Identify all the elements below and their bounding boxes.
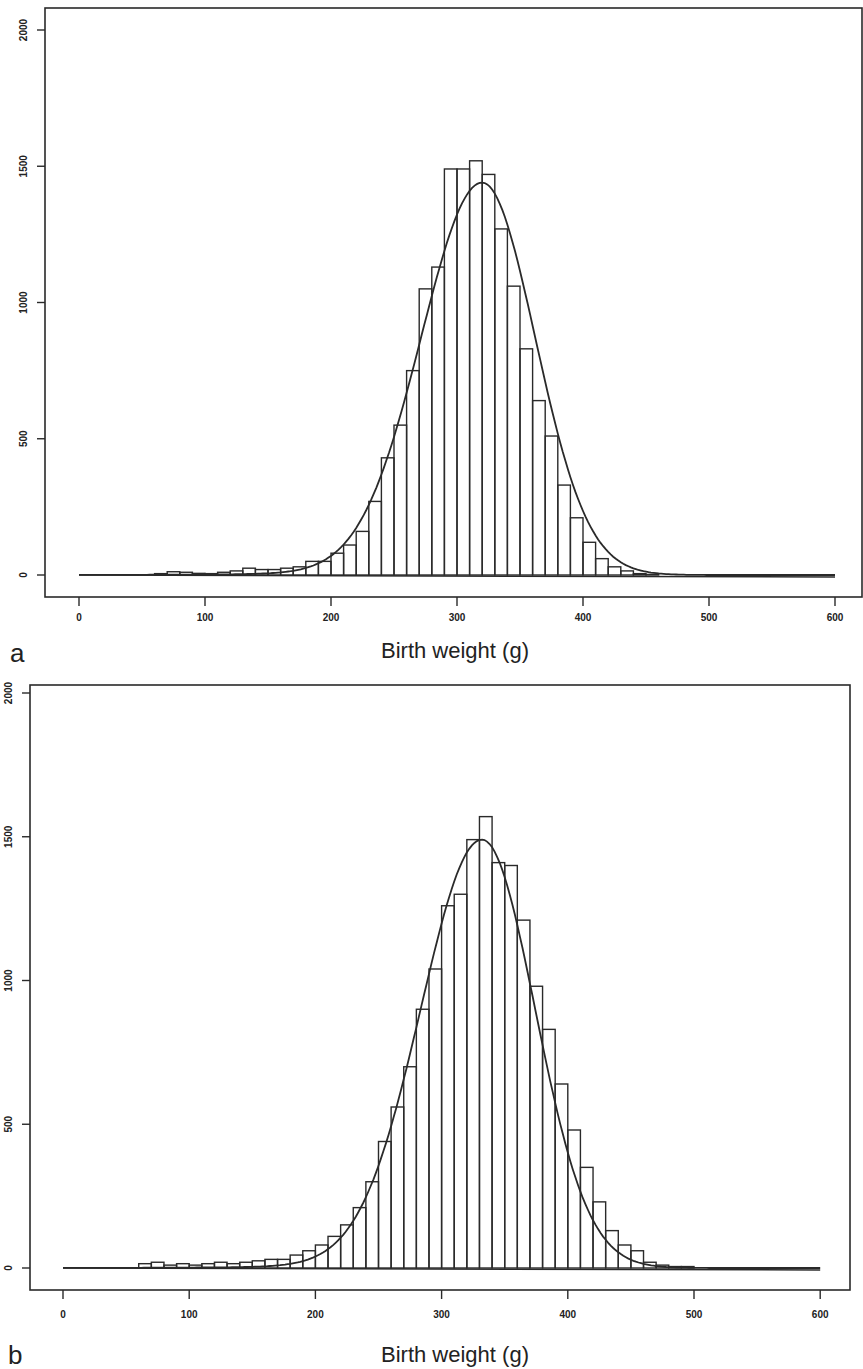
histogram-bar	[419, 289, 432, 575]
histogram-panel-a: 05001000150020000100200300400500600Birth…	[10, 8, 862, 668]
histogram-bar	[596, 559, 609, 575]
x-tick-label: 0	[76, 612, 82, 623]
x-tick-label: 100	[181, 1309, 198, 1320]
x-tick-label: 0	[60, 1309, 66, 1320]
x-tick-label: 500	[701, 612, 718, 623]
histogram-panel-b: 05001000150020000100200300400500600Birth…	[3, 681, 850, 1369]
histogram-bar	[344, 545, 357, 575]
histogram-bar	[621, 571, 634, 575]
x-tick-label: 400	[575, 612, 592, 623]
x-tick-label: 300	[433, 1309, 450, 1320]
histogram-bar	[416, 1009, 429, 1268]
y-tick-label: 0	[3, 1265, 14, 1271]
histogram-bar	[507, 286, 520, 575]
histogram-bar	[442, 906, 455, 1268]
histogram-bar	[606, 1231, 619, 1268]
x-tick-label: 500	[686, 1309, 703, 1320]
histogram-bar	[394, 425, 407, 575]
histogram-bar	[404, 1067, 417, 1268]
histogram-bar	[369, 501, 382, 575]
panel-label: a	[10, 638, 25, 668]
histogram-bar	[391, 1107, 404, 1268]
x-axis-title: Birth weight (g)	[381, 1342, 529, 1367]
histogram-bar	[593, 1202, 606, 1268]
plot-frame	[30, 685, 850, 1290]
y-tick-label: 1000	[3, 969, 14, 992]
histogram-bar	[570, 518, 583, 575]
x-tick-label: 200	[307, 1309, 324, 1320]
histogram-bar	[530, 986, 543, 1268]
x-tick-label: 200	[323, 612, 340, 623]
x-tick-label: 100	[197, 612, 214, 623]
panel-label: b	[8, 1340, 22, 1369]
y-tick-label: 1000	[18, 291, 29, 314]
x-tick-label: 400	[559, 1309, 576, 1320]
histogram-bar	[492, 863, 505, 1268]
x-tick-label: 600	[812, 1309, 829, 1320]
histogram-bar	[454, 894, 467, 1268]
plot-frame	[45, 8, 862, 597]
histogram-bar	[646, 574, 659, 575]
histogram-bar	[505, 866, 518, 1269]
histogram-bar	[331, 553, 344, 575]
histogram-bar	[482, 174, 495, 575]
histogram-bar	[533, 401, 546, 575]
histogram-bar	[633, 574, 646, 575]
histogram-bar	[631, 1251, 644, 1268]
histogram-bar	[543, 1029, 556, 1268]
histogram-bar	[568, 1130, 581, 1268]
histogram-bar	[479, 817, 492, 1268]
histogram-bar	[328, 1236, 341, 1268]
histogram-bar	[407, 371, 420, 575]
histogram-bar	[356, 531, 369, 575]
x-tick-label: 600	[827, 612, 844, 623]
histogram-bar	[545, 436, 558, 575]
histogram-bar	[429, 969, 442, 1268]
histogram-bar	[583, 542, 596, 575]
y-tick-label: 1500	[18, 155, 29, 178]
y-tick-label: 500	[18, 430, 29, 447]
histogram-bar	[381, 458, 394, 575]
histogram-bar	[558, 485, 571, 575]
figure: 05001000150020000100200300400500600Birth…	[0, 0, 863, 1369]
histogram-bar	[432, 267, 445, 575]
histogram-bar	[467, 840, 480, 1268]
histogram-bar	[470, 161, 483, 575]
histogram-bar	[495, 229, 508, 575]
y-tick-label: 2000	[3, 681, 14, 704]
x-tick-label: 300	[449, 612, 466, 623]
histogram-bar	[520, 349, 533, 575]
y-tick-label: 500	[3, 1115, 14, 1132]
histogram-bar	[457, 169, 470, 575]
y-tick-label: 1500	[3, 825, 14, 848]
x-axis-title: Birth weight (g)	[381, 638, 529, 663]
histogram-bar	[318, 561, 331, 575]
y-tick-label: 0	[18, 572, 29, 578]
y-tick-label: 2000	[18, 18, 29, 41]
histogram-bar	[608, 567, 621, 575]
